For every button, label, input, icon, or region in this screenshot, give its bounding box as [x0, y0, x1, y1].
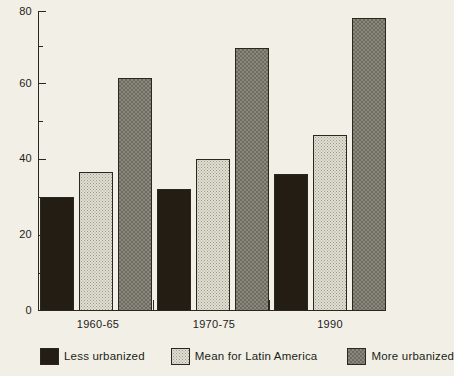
- legend-item-more-urbanized: More urbanized: [347, 348, 454, 365]
- legend-label-more-urbanized: More urbanized: [371, 350, 454, 363]
- bar-1990-mean-latin-america: [313, 135, 347, 311]
- bar-1990-more-urbanized: [352, 18, 386, 311]
- bar-1960-65-less-urbanized: [40, 197, 74, 311]
- x-tick-label-1970-75: 1970-75: [156, 318, 272, 330]
- chart-legend: Less urbanized Mean for Latin America Mo…: [40, 346, 454, 366]
- y-tick-label-0: 0: [0, 305, 32, 316]
- x-tick-label-1990: 1990: [272, 318, 388, 330]
- legend-swatch-mean-latin-america: [171, 348, 190, 365]
- y-tick-label-20: 20: [0, 229, 32, 240]
- bars-layer: [38, 11, 386, 311]
- legend-item-mean-latin-america: Mean for Latin America: [171, 348, 318, 365]
- y-tick-label-40: 40: [0, 153, 32, 164]
- y-tick-label-80: 80: [0, 6, 32, 17]
- legend-swatch-less-urbanized: [40, 348, 59, 365]
- x-tick-label-1960-65: 1960-65: [40, 318, 156, 330]
- legend-label-less-urbanized: Less urbanized: [64, 350, 145, 363]
- bar-1960-65-mean-latin-america: [79, 172, 113, 311]
- bar-1960-65-more-urbanized: [118, 78, 152, 311]
- bar-1970-75-less-urbanized: [157, 189, 191, 311]
- bar-1970-75-mean-latin-america: [196, 159, 230, 311]
- legend-label-mean-latin-america: Mean for Latin America: [195, 350, 318, 363]
- legend-swatch-more-urbanized: [347, 348, 366, 365]
- legend-item-less-urbanized: Less urbanized: [40, 348, 145, 365]
- bar-1990-less-urbanized: [274, 174, 308, 311]
- bar-1970-75-more-urbanized: [235, 48, 269, 311]
- y-tick-label-60: 60: [0, 78, 32, 89]
